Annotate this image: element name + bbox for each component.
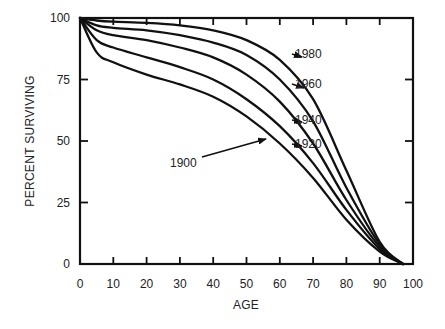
x-tick-label: 0	[77, 277, 84, 291]
survival-curves-chart: 01020304050607080901000255075100 1980196…	[0, 0, 445, 329]
annotation-label-1920: 1920	[295, 137, 322, 151]
annotation-label-1960: 1960	[295, 77, 322, 91]
y-tick-label: 50	[57, 134, 71, 148]
axis-ticks: 01020304050607080901000255075100	[50, 11, 423, 291]
y-axis-title: PERCENT SURVIVING	[23, 75, 37, 206]
x-tick-label: 30	[173, 277, 187, 291]
x-tick-label: 20	[140, 277, 154, 291]
x-tick-label: 40	[207, 277, 221, 291]
y-tick-label: 25	[57, 196, 71, 210]
x-tick-label: 70	[306, 277, 320, 291]
annotation-label-1900: 1900	[170, 156, 197, 170]
curve-1900	[80, 18, 403, 264]
x-tick-label: 60	[273, 277, 287, 291]
x-tick-label: 50	[240, 277, 254, 291]
annotation-arrow-1900	[202, 139, 266, 157]
y-tick-label: 0	[63, 257, 70, 271]
annotation-label-1980: 1980	[295, 47, 322, 61]
x-tick-label: 100	[403, 277, 423, 291]
year-annotations: 19801960194019201900	[170, 47, 322, 170]
x-tick-label: 80	[340, 277, 354, 291]
y-tick-label: 75	[57, 73, 71, 87]
annotation-label-1940: 1940	[295, 113, 322, 127]
x-tick-label: 90	[373, 277, 387, 291]
y-tick-label: 100	[50, 11, 70, 25]
survival-curves	[80, 18, 403, 264]
x-axis-title: AGE	[233, 298, 259, 312]
x-tick-label: 10	[107, 277, 121, 291]
